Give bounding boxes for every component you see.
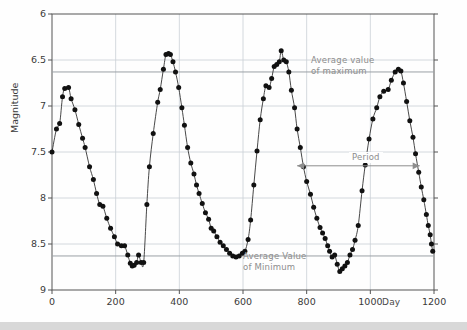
data-point xyxy=(206,217,211,222)
data-point xyxy=(200,201,205,206)
x-tick-label: 200 xyxy=(104,296,128,307)
data-point xyxy=(289,88,294,93)
data-point xyxy=(347,253,352,258)
data-point xyxy=(100,204,105,209)
data-point xyxy=(367,137,372,142)
data-point xyxy=(191,172,196,177)
data-point xyxy=(381,89,386,94)
data-point xyxy=(197,191,202,196)
data-point xyxy=(136,253,141,258)
data-point xyxy=(304,179,309,184)
data-point xyxy=(284,59,289,64)
x-tick-label: 0 xyxy=(40,296,64,307)
data-point xyxy=(374,105,379,110)
data-point xyxy=(155,100,160,105)
data-point xyxy=(429,242,434,247)
data-point xyxy=(179,105,184,110)
data-point xyxy=(269,76,274,81)
data-point xyxy=(122,243,127,248)
data-point xyxy=(261,96,266,101)
data-point xyxy=(308,192,313,197)
data-point xyxy=(76,122,81,127)
data-point xyxy=(66,85,71,90)
data-point xyxy=(428,232,433,237)
data-point xyxy=(430,249,435,254)
data-point xyxy=(258,117,263,122)
data-point xyxy=(188,161,193,166)
data-point xyxy=(141,260,146,265)
data-point xyxy=(168,52,173,57)
data-point xyxy=(401,81,406,86)
data-point xyxy=(161,67,166,72)
data-point xyxy=(211,229,216,234)
x-tick-label: 1200 xyxy=(422,296,446,307)
data-point xyxy=(353,238,358,243)
data-point xyxy=(69,96,74,101)
y-tick-label: 7.5 xyxy=(18,146,46,157)
data-point xyxy=(151,131,156,136)
period-arrowhead-right xyxy=(413,162,420,169)
data-point xyxy=(426,223,431,228)
data-point xyxy=(255,149,260,154)
period-arrow xyxy=(297,162,420,169)
data-point xyxy=(419,184,424,189)
data-point xyxy=(292,105,297,110)
data-point xyxy=(410,135,415,140)
x-tick-label: 600 xyxy=(231,296,255,307)
data-point xyxy=(363,162,368,167)
data-point xyxy=(158,87,163,92)
light-curve-plot xyxy=(0,0,467,330)
data-point xyxy=(320,230,325,235)
data-point xyxy=(370,116,375,121)
data-point xyxy=(286,69,291,74)
annotation-period-label: Period xyxy=(349,152,383,163)
data-point xyxy=(57,121,62,126)
data-point xyxy=(54,127,59,132)
data-point xyxy=(345,260,350,265)
period-arrowhead-left xyxy=(297,162,304,169)
data-point xyxy=(318,225,323,230)
data-point xyxy=(398,69,403,74)
data-point xyxy=(214,234,219,239)
data-point xyxy=(112,234,117,239)
x-tick-label: 400 xyxy=(167,296,191,307)
data-point xyxy=(108,226,113,231)
y-tick-label: 8 xyxy=(18,192,46,203)
data-point xyxy=(325,243,330,248)
data-point xyxy=(332,253,337,258)
data-point xyxy=(377,94,382,99)
data-point xyxy=(279,48,284,53)
data-point xyxy=(173,69,178,74)
data-point xyxy=(407,118,412,123)
data-point xyxy=(60,94,65,99)
data-point xyxy=(87,164,92,169)
data-point xyxy=(323,236,328,241)
x-tick-label: 800 xyxy=(295,296,319,307)
data-point xyxy=(50,150,55,155)
data-point xyxy=(298,145,303,150)
x-axis-label: Day xyxy=(382,297,400,308)
data-point xyxy=(125,253,130,258)
data-point xyxy=(360,188,365,193)
data-point xyxy=(267,85,272,90)
data-point xyxy=(170,59,175,64)
y-tick-label: 6.5 xyxy=(18,54,46,65)
data-point xyxy=(144,202,149,207)
y-tick-label: 6 xyxy=(18,8,46,19)
data-point xyxy=(91,177,96,182)
data-point xyxy=(203,210,208,215)
data-point xyxy=(350,247,355,252)
data-point xyxy=(314,216,319,221)
data-point xyxy=(246,237,251,242)
data-point xyxy=(311,205,316,210)
data-point xyxy=(176,85,181,90)
data-point xyxy=(421,197,426,202)
data-point xyxy=(356,223,361,228)
data-point xyxy=(295,127,300,132)
data-point xyxy=(194,183,199,188)
data-point xyxy=(277,59,282,64)
data-point xyxy=(80,136,85,141)
data-point xyxy=(251,183,256,188)
x-tick-label: 1000 xyxy=(358,296,382,307)
data-point xyxy=(413,151,418,156)
